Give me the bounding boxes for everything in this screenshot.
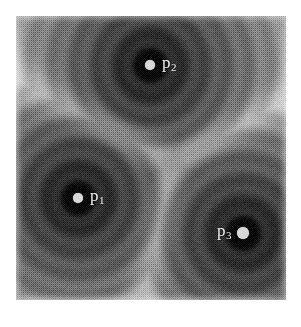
site-marker-p2: [145, 60, 155, 70]
site-label-base-p2: p: [162, 53, 171, 72]
site-label-subscript-p2: 2: [171, 61, 177, 73]
site-label-p3: p3: [217, 222, 231, 241]
site-marker-p1: [73, 193, 83, 203]
site-label-base-p3: p: [217, 221, 226, 240]
site-label-subscript-p3: 3: [226, 229, 232, 241]
site-label-base-p1: p: [90, 186, 99, 205]
figure-root: p1p2p3: [0, 0, 301, 327]
site-marker-p3: [237, 227, 249, 239]
site-label-subscript-p1: 1: [99, 194, 105, 206]
distance-field-plot: p1p2p3: [16, 16, 286, 300]
distance-field-canvas: [16, 16, 286, 300]
site-label-p2: p2: [162, 54, 176, 73]
site-label-p1: p1: [90, 187, 104, 206]
